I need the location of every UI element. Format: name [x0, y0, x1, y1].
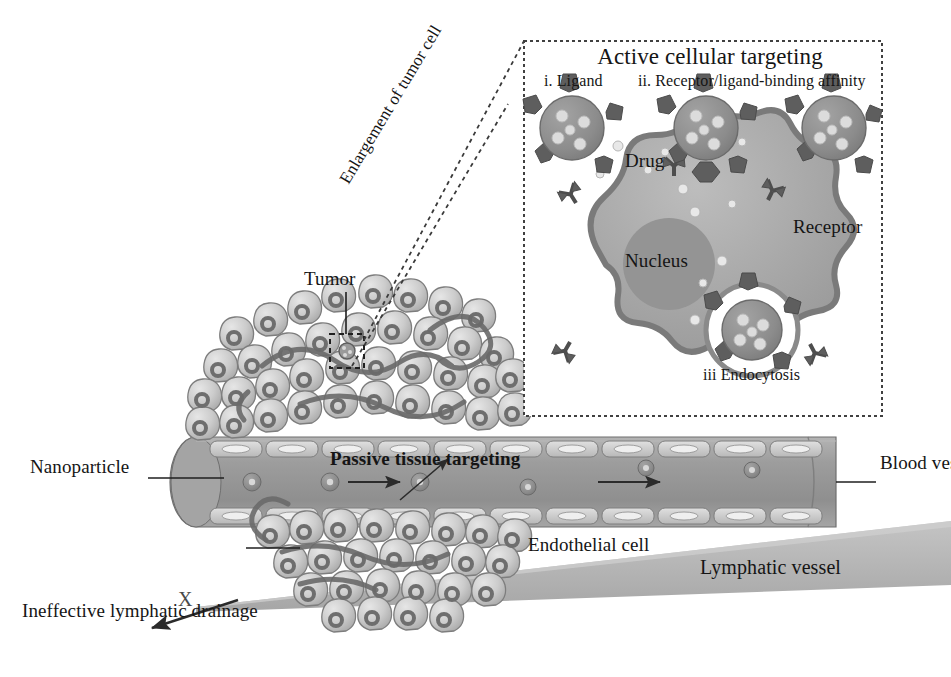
inset-title: Active cellular targeting: [560, 44, 860, 70]
label-nanoparticle: Nanoparticle: [30, 456, 129, 477]
x-mark: X: [178, 588, 193, 610]
label-passive-tissue-targeting: Passive tissue targeting: [330, 448, 460, 469]
label-blood-vessel: Blood vessel: [880, 452, 950, 473]
label-drug: Drug: [625, 150, 664, 171]
inset-step-ligand: i. Ligand: [544, 72, 603, 90]
label-lymphatic-vessel: Lymphatic vessel: [700, 556, 841, 578]
inset-step-endocytosis: iii Endocytosis: [703, 366, 800, 384]
label-nucleus: Nucleus: [625, 250, 688, 271]
figure-canvas: Active cellular targeting i. Ligand ii. …: [0, 0, 951, 677]
label-endothelial-cell: Endothelial cell: [528, 534, 649, 555]
inset-step-affinity: ii. Receptor/ligand-binding affinity: [638, 72, 866, 90]
tumor-mass-upper: [186, 275, 532, 440]
tumor-mass-lower: [256, 509, 532, 632]
label-receptor: Receptor: [793, 216, 862, 237]
label-tumor: Tumor: [304, 268, 356, 289]
